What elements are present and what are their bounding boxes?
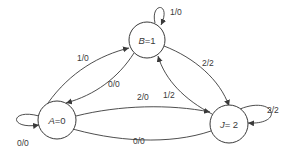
edge-label-b-b: 1/0 xyxy=(170,7,182,17)
edge-b-b xyxy=(154,7,164,25)
svg-text:J= 2: J= 2 xyxy=(219,119,238,130)
node-b: B=1 xyxy=(129,22,165,58)
edge-label-j-j: 2/2 xyxy=(267,105,279,115)
svg-text:B=1: B=1 xyxy=(138,35,155,46)
edge-a-a xyxy=(16,114,39,126)
node-j: J= 2 xyxy=(210,105,248,143)
edge-label-a-j: 2/0 xyxy=(137,92,149,102)
edge-label-a-a: 0/0 xyxy=(17,138,29,148)
diagram-canvas: A=0 B=1 J= 2 0/0 1/0 0/0 1/0 2/2 1/2 2/0… xyxy=(0,0,291,154)
svg-text:A=0: A=0 xyxy=(47,115,65,126)
node-a: A=0 xyxy=(38,101,76,139)
edge-label-a-b: 1/0 xyxy=(77,53,89,63)
edge-a-j xyxy=(76,107,210,116)
edge-label-j-a: 0/0 xyxy=(133,136,145,146)
state-diagram: A=0 B=1 J= 2 0/0 1/0 0/0 1/0 2/2 1/2 2/0… xyxy=(0,0,291,154)
edge-label-j-b: 1/2 xyxy=(163,90,175,100)
edge-label-b-a: 0/0 xyxy=(108,79,120,89)
edge-label-b-j: 2/2 xyxy=(202,58,214,68)
